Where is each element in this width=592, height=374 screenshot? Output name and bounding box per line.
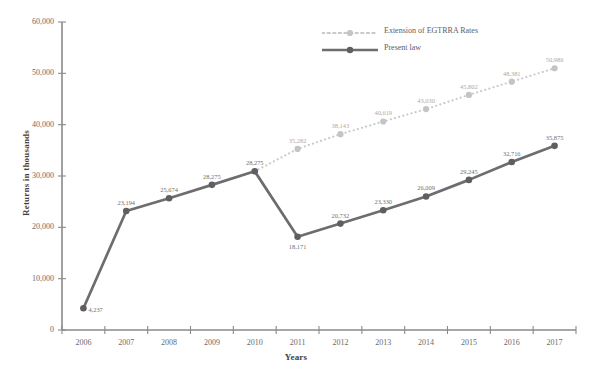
data-point-label: 48,381 bbox=[492, 70, 532, 77]
x-tick-label: 2013 bbox=[359, 338, 407, 347]
y-tick-label: 0 bbox=[0, 325, 54, 334]
legend-item-extension-of-egtrra-rates[interactable]: Extension of EGTRRA Rates bbox=[322, 22, 478, 39]
data-point-label: 28,275 bbox=[235, 159, 275, 166]
data-point-label: 32,716 bbox=[492, 150, 532, 157]
y-tick-label: 40,000 bbox=[0, 120, 54, 129]
data-point-label: 23,194 bbox=[106, 199, 146, 206]
data-point-label: 38,143 bbox=[320, 122, 360, 129]
data-point bbox=[380, 118, 386, 124]
data-point-label: 25,674 bbox=[149, 186, 189, 193]
x-tick-label: 2016 bbox=[488, 338, 536, 347]
data-point-label: 35,875 bbox=[535, 134, 575, 141]
x-tick-label: 2015 bbox=[445, 338, 493, 347]
chart-figure: Returns in thousands Years 010,00020,000… bbox=[0, 0, 592, 374]
data-point bbox=[423, 193, 430, 200]
data-point-label: 45,802 bbox=[449, 83, 489, 90]
data-point-label: 4,237 bbox=[88, 306, 128, 313]
y-tick-label: 60,000 bbox=[0, 17, 54, 26]
x-tick-label: 2007 bbox=[102, 338, 150, 347]
x-tick-label: 2008 bbox=[145, 338, 193, 347]
data-point bbox=[337, 131, 343, 137]
axis-lines bbox=[62, 22, 576, 330]
data-point-label: 18,171 bbox=[278, 243, 318, 250]
x-tick-label: 2010 bbox=[231, 338, 279, 347]
legend-label-present-law: Present law bbox=[384, 43, 421, 52]
data-point bbox=[551, 65, 557, 71]
x-axis-title: Years bbox=[0, 352, 592, 362]
legend-item-present-law[interactable]: Present law bbox=[322, 39, 478, 56]
y-tick-label: 20,000 bbox=[0, 222, 54, 231]
data-point bbox=[466, 177, 473, 184]
chart-legend: Extension of EGTRRA Rates Present law bbox=[322, 22, 478, 56]
x-tick-label: 2009 bbox=[188, 338, 236, 347]
data-point bbox=[423, 106, 429, 112]
y-tick-label: 50,000 bbox=[0, 68, 54, 77]
line-chart-canvas bbox=[0, 0, 592, 374]
data-point-label: 28,275 bbox=[192, 173, 232, 180]
data-point bbox=[509, 79, 515, 85]
legend-swatch-solid bbox=[322, 42, 378, 54]
data-point-label: 29,245 bbox=[449, 168, 489, 175]
data-point-label: 50,986 bbox=[535, 56, 575, 63]
data-point-label: 40,619 bbox=[363, 109, 403, 116]
data-point bbox=[380, 207, 387, 214]
data-point bbox=[294, 146, 300, 152]
data-point bbox=[123, 208, 130, 215]
data-point bbox=[466, 92, 472, 98]
x-tick-label: 2006 bbox=[59, 338, 107, 347]
series-extension-of-egtrra-rates bbox=[252, 65, 558, 174]
data-point-label: 23,330 bbox=[363, 198, 403, 205]
y-tick-label: 30,000 bbox=[0, 171, 54, 180]
x-tick-label: 2014 bbox=[402, 338, 450, 347]
data-point bbox=[251, 168, 258, 175]
x-tick-label: 2011 bbox=[274, 338, 322, 347]
data-point bbox=[551, 143, 558, 150]
data-point-label: 26,009 bbox=[406, 184, 446, 191]
data-point bbox=[80, 305, 87, 312]
data-point bbox=[294, 233, 301, 240]
x-tick-label: 2017 bbox=[531, 338, 579, 347]
data-point bbox=[209, 182, 216, 189]
legend-swatch-dotted bbox=[322, 25, 378, 37]
data-point bbox=[337, 220, 344, 227]
data-point-label: 43,030 bbox=[406, 97, 446, 104]
data-point-label: 20,732 bbox=[320, 212, 360, 219]
x-tick-label: 2012 bbox=[316, 338, 364, 347]
data-point-label: 35,282 bbox=[278, 137, 318, 144]
data-point bbox=[508, 159, 515, 166]
y-tick-label: 10,000 bbox=[0, 274, 54, 283]
data-point bbox=[166, 195, 173, 202]
legend-label-extension-of-egtrra-rates: Extension of EGTRRA Rates bbox=[384, 26, 478, 35]
